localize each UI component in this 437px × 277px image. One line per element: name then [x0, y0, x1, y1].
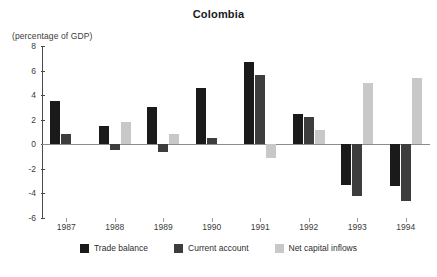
y-tick-label: -2 — [28, 164, 36, 174]
y-tick-label: -6 — [28, 213, 36, 223]
x-axis-label-1987: 1987 — [42, 222, 91, 232]
y-tick-label: -4 — [28, 188, 36, 198]
bar-group — [285, 46, 334, 218]
bar-group — [382, 46, 431, 218]
bar-trade-balance-1992 — [293, 114, 303, 145]
bar-net-capital-inflows-1989 — [169, 134, 179, 144]
y-tick-mark — [41, 218, 45, 219]
y-tick-label: 8 — [31, 41, 36, 51]
legend-label: Current account — [188, 243, 248, 253]
x-axis-label-1994: 1994 — [382, 222, 431, 232]
bar-trade-balance-1988 — [99, 126, 109, 144]
chart-title: Colombia — [0, 8, 437, 20]
y-tick-label: 0 — [31, 139, 36, 149]
chart-figure: Colombia (percentage of GDP) 86420-2-4-6… — [0, 0, 437, 277]
legend-item-net-capital-inflows[interactable]: Net capital inflows — [275, 243, 358, 253]
bar-group — [333, 46, 382, 218]
bar-trade-balance-1994 — [390, 144, 400, 186]
bar-current-account-1989 — [158, 144, 168, 151]
x-axis-label-1989: 1989 — [139, 222, 188, 232]
bar-group — [42, 46, 91, 218]
legend-label: Net capital inflows — [289, 243, 358, 253]
bar-current-account-1988 — [110, 144, 120, 150]
bar-group — [139, 46, 188, 218]
bar-net-capital-inflows-1991 — [266, 144, 276, 158]
x-axis-label-1990: 1990 — [188, 222, 237, 232]
bar-trade-balance-1989 — [147, 107, 157, 144]
legend-swatch-trade-balance — [80, 244, 89, 253]
bar-trade-balance-1990 — [196, 88, 206, 145]
bar-current-account-1991 — [255, 75, 265, 144]
x-axis-label-1991: 1991 — [236, 222, 285, 232]
legend-label: Trade balance — [94, 243, 148, 253]
y-tick-label: 6 — [31, 66, 36, 76]
bar-trade-balance-1987 — [50, 101, 60, 144]
x-axis-label-1988: 1988 — [91, 222, 140, 232]
bar-net-capital-inflows-1992 — [315, 130, 325, 145]
x-axis-label-1992: 1992 — [285, 222, 334, 232]
bar-current-account-1992 — [304, 117, 314, 144]
bar-group — [236, 46, 285, 218]
bar-trade-balance-1993 — [341, 144, 351, 185]
bar-net-capital-inflows-1994 — [412, 78, 422, 144]
y-tick-label: 4 — [31, 90, 36, 100]
chart-legend: Trade balanceCurrent accountNet capital … — [0, 243, 437, 253]
bar-net-capital-inflows-1993 — [363, 83, 373, 144]
bar-current-account-1987 — [61, 134, 71, 144]
bar-current-account-1993 — [352, 144, 362, 196]
x-axis-label-1993: 1993 — [333, 222, 382, 232]
plot-area: 86420-2-4-6 1987198819891990199119921993… — [42, 46, 430, 218]
bar-trade-balance-1991 — [244, 62, 254, 144]
bar-group — [91, 46, 140, 218]
legend-item-trade-balance[interactable]: Trade balance — [80, 243, 148, 253]
legend-swatch-current-account — [174, 244, 183, 253]
legend-swatch-net-capital-inflows — [275, 244, 284, 253]
bar-current-account-1994 — [401, 144, 411, 201]
legend-item-current-account[interactable]: Current account — [174, 243, 248, 253]
bar-current-account-1990 — [207, 138, 217, 144]
bar-group — [188, 46, 237, 218]
bar-net-capital-inflows-1988 — [121, 122, 131, 144]
y-tick-label: 2 — [31, 115, 36, 125]
chart-subtitle-units: (percentage of GDP) — [12, 31, 92, 41]
